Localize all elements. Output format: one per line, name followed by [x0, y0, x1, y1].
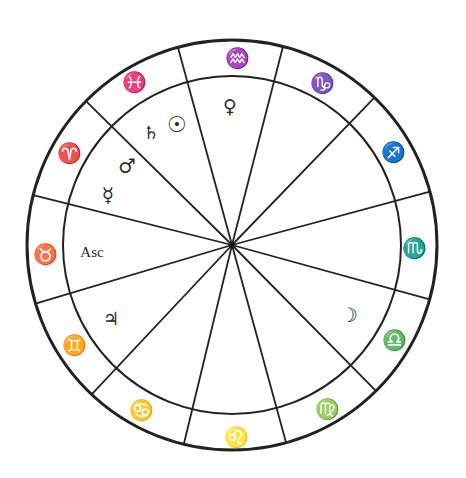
- astrology-chart-wheel: ♒♑♐♏♎♍♌♋♊♉♈♓ ♀☉♄♂☿♃☽ Asc: [0, 0, 466, 478]
- planet-mercury-icon: ☿: [102, 183, 114, 207]
- sign-capricorn-icon: ♑: [310, 71, 335, 95]
- sign-cancer-icon: ♋: [129, 398, 154, 422]
- sign-libra-icon: ♎: [382, 328, 407, 352]
- sign-taurus-icon: ♉: [33, 242, 58, 266]
- sign-pisces-icon: ♓: [122, 70, 147, 94]
- house-cusp-line-3: [232, 98, 374, 245]
- chart-labels: Asc: [80, 244, 104, 260]
- sign-aries-icon: ♈: [57, 141, 82, 165]
- planet-saturn-icon: ♄: [143, 122, 159, 143]
- sign-aquarius-icon: ♒: [225, 46, 250, 70]
- sign-gemini-icon: ♊: [62, 333, 87, 357]
- label-ascendant: Asc: [80, 244, 104, 260]
- sign-virgo-icon: ♍: [315, 397, 340, 421]
- center-hub: [230, 243, 235, 248]
- planet-moon-icon: ☽: [340, 303, 358, 327]
- planet-jupiter-icon: ♃: [103, 308, 119, 329]
- planet-venus-icon: ♀: [223, 95, 237, 117]
- sign-leo-icon: ♌: [224, 425, 249, 449]
- planet-mars-icon: ♂: [118, 154, 136, 178]
- sign-scorpio-icon: ♏: [402, 236, 427, 260]
- sign-sagittarius-icon: ♐: [381, 140, 406, 164]
- planet-sun-icon: ☉: [167, 112, 187, 137]
- planet-glyphs: ♀☉♄♂☿♃☽: [102, 95, 358, 329]
